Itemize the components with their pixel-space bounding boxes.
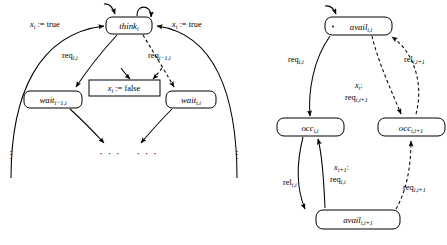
label-req-i-ip1-bottom: reqi,i+1 — [403, 183, 426, 193]
label-req-i-i-right-diagram: reqi,i — [288, 55, 304, 65]
initial-arrow-avail-top — [325, 6, 336, 14]
label-rel-i-i: reli,i — [283, 178, 297, 188]
label-req-im1-i-right: reqi−1,i — [148, 51, 171, 61]
label-req-i-ip1-top: reqi,i+1 — [345, 93, 368, 103]
edge-think-to-wait-left — [76, 35, 117, 87]
initial-state-dot — [332, 26, 334, 28]
node-think-label: thinki — [119, 21, 139, 32]
ellipsis-far-right: ⋮ — [232, 149, 242, 160]
label-x-ip1-colon: xi+1: — [333, 163, 349, 173]
left-automaton: thinki xi := true xi := true reqi,i reqi… — [6, 4, 242, 178]
right-automaton: availi,i reqi,i xi: reqi,i+1 reli,i+1 oc… — [277, 6, 445, 229]
edge-to-assign-box-right — [153, 68, 162, 79]
label-rel-i-ip1: reli,i+1 — [404, 55, 425, 65]
ellipsis-mid-left: · · · — [99, 147, 121, 159]
ellipsis-far-left: ⋮ — [6, 149, 16, 160]
edge-to-assign-box-left — [121, 68, 130, 79]
automata-figure: thinki xi := true xi := true reqi,i reqi… — [0, 0, 447, 245]
node-think-sub: i — [137, 26, 139, 32]
label-req-i-i-left: reqi,i — [62, 51, 78, 61]
label-req-i-i-bottom: reqi,i — [330, 175, 346, 185]
edge-think-to-wait-right — [143, 35, 174, 87]
edge-avail-bot-to-occ-left — [318, 139, 325, 208]
ellipsis-mid-right: · · · — [136, 147, 158, 159]
label-x-true-right: xi := true — [171, 20, 202, 30]
diagram-canvas: thinki xi := true xi := true reqi,i reqi… — [0, 0, 447, 245]
node-think-base: think — [119, 21, 138, 31]
edge-avail-top-to-occ-left — [310, 36, 330, 116]
edge-avail-bot-to-occ-right — [396, 141, 411, 209]
edge-avail-top-to-occ-right — [372, 36, 401, 114]
edge-wait-left-to-dots — [70, 109, 104, 143]
initial-arrow-think — [104, 4, 115, 14]
label-x-i-colon: xi: — [354, 81, 363, 91]
edge-wait-right-to-dots — [141, 109, 172, 143]
label-x-true-left: xi := true — [29, 20, 60, 30]
edge-occ-left-to-avail-bot — [298, 137, 305, 209]
edge-think-self-loop — [137, 7, 151, 17]
